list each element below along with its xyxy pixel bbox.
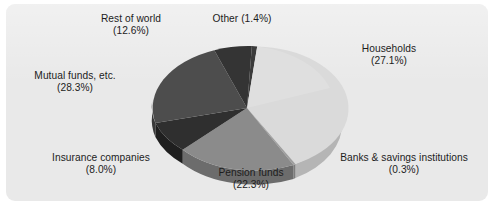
slice-label-other: Other (1.4%) bbox=[188, 13, 296, 25]
slice-label-other-name: Other bbox=[213, 13, 242, 24]
slice-label-banks: Banks & savings institutions (0.3%) bbox=[320, 152, 488, 177]
slice-label-rest-of-world-name: Rest of world bbox=[77, 13, 185, 25]
slice-label-other-pct: (1.4%) bbox=[241, 13, 271, 24]
slice-label-insurance-companies-name: Insurance companies bbox=[28, 152, 174, 164]
slice-label-mutual-funds-name: Mutual funds, etc. bbox=[14, 70, 136, 82]
slice-label-households-name: Households bbox=[330, 43, 448, 55]
slice-label-pension-funds-name: Pension funds bbox=[194, 167, 308, 179]
slice-label-insurance-companies: Insurance companies (8.0%) bbox=[28, 152, 174, 177]
slice-label-households-pct: (27.1%) bbox=[330, 55, 448, 67]
slice-label-pension-funds: Pension funds (22.3%) bbox=[194, 167, 308, 192]
slice-label-mutual-funds-pct: (28.3%) bbox=[14, 82, 136, 94]
slice-label-rest-of-world-pct: (12.6%) bbox=[77, 25, 185, 37]
slice-label-households: Households (27.1%) bbox=[330, 43, 448, 68]
slice-label-insurance-companies-pct: (8.0%) bbox=[28, 164, 174, 176]
slice-label-banks-name: Banks & savings institutions bbox=[320, 152, 488, 164]
slice-label-rest-of-world: Rest of world (12.6%) bbox=[77, 13, 185, 38]
slice-label-mutual-funds: Mutual funds, etc. (28.3%) bbox=[14, 70, 136, 95]
slice-label-banks-pct: (0.3%) bbox=[320, 164, 488, 176]
slice-label-pension-funds-pct: (22.3%) bbox=[194, 179, 308, 191]
pie-chart-figure: Rest of world (12.6%) Other (1.4%) House… bbox=[0, 0, 494, 214]
